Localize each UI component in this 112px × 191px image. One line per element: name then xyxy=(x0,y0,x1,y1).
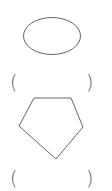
shapes-canvas xyxy=(0,0,112,191)
open-paren: ( xyxy=(10,71,17,93)
answer-blank-2: ( ) xyxy=(0,167,112,189)
pentagon-shape xyxy=(19,98,83,159)
close-paren: ) xyxy=(86,71,93,93)
close-paren: ) xyxy=(86,167,93,189)
answer-field-2[interactable] xyxy=(22,167,84,189)
open-paren: ( xyxy=(10,167,17,189)
ellipse-shape xyxy=(24,18,81,55)
answer-field-1[interactable] xyxy=(22,71,84,93)
answer-blank-1: ( ) xyxy=(0,71,112,93)
